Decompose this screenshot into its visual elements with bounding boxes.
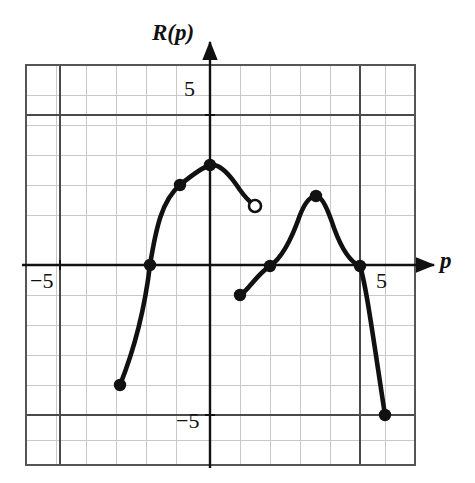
point-filled xyxy=(174,179,186,191)
curve-branch-left xyxy=(120,165,254,385)
point-filled xyxy=(379,409,391,421)
y-tick-label-negative-5: −5 xyxy=(176,408,199,434)
point-open xyxy=(249,200,261,212)
point-filled xyxy=(264,260,276,272)
x-tick-label-positive-5: 5 xyxy=(376,268,387,294)
point-filled xyxy=(234,289,246,301)
point-filled xyxy=(204,159,216,171)
curve-branch-right xyxy=(240,196,385,415)
coordinate-plane xyxy=(0,0,475,483)
filled-points xyxy=(114,159,391,421)
point-filled xyxy=(310,190,322,202)
y-tick-label-positive-5: 5 xyxy=(184,76,195,102)
graph-figure: R(p) p 5 −5 −5 5 xyxy=(0,0,475,483)
point-filled xyxy=(114,379,126,391)
point-filled xyxy=(144,259,156,271)
x-axis-label: p xyxy=(440,248,452,274)
x-tick-label-negative-5: −5 xyxy=(30,268,53,294)
point-filled xyxy=(354,260,366,272)
y-axis-label: R(p) xyxy=(152,20,194,46)
